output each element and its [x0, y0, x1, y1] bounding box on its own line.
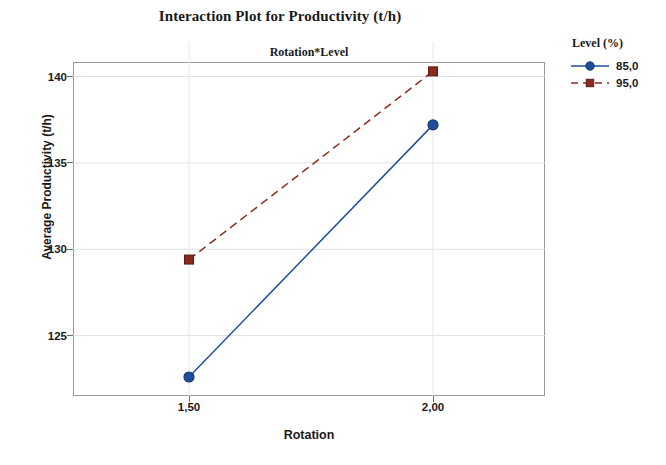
data-point-marker[interactable] [184, 372, 194, 382]
plot-area [73, 42, 545, 396]
y-tick-mark [67, 76, 73, 77]
legend-label-95: 95,0 [616, 77, 638, 89]
y-axis-title: Average Productivity (t/h) [40, 67, 54, 307]
y-tick-mark [67, 249, 73, 250]
legend-title: Level (%) [570, 36, 666, 51]
x-tick-mark [433, 396, 434, 402]
y-tick-mark [67, 162, 73, 163]
x-tick-label: 2,00 [403, 401, 463, 413]
y-tick-label: 125 [27, 330, 67, 342]
interaction-plot-chart: Interaction Plot for Productivity (t/h) … [0, 0, 666, 465]
legend-label-85: 85,0 [616, 60, 638, 72]
legend-key-circle-icon [570, 59, 610, 73]
data-point-marker[interactable] [185, 255, 194, 264]
chart-title: Interaction Plot for Productivity (t/h) [0, 8, 560, 25]
legend-item-85[interactable]: 85,0 [570, 57, 666, 74]
data-point-marker[interactable] [428, 120, 438, 130]
legend: Level (%) 85,0 95,0 [570, 36, 666, 91]
series-line-950 [189, 71, 433, 259]
y-tick-mark [67, 335, 73, 336]
data-point-marker[interactable] [429, 67, 438, 76]
x-axis-title: Rotation [73, 428, 545, 442]
legend-key-square-icon [570, 76, 610, 90]
x-tick-label: 1,50 [159, 401, 219, 413]
legend-item-95[interactable]: 95,0 [570, 74, 666, 91]
x-tick-mark [189, 396, 190, 402]
